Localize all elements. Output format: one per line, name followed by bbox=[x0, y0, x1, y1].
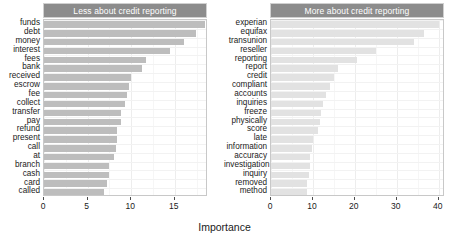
y-axis-tick-label: equifax bbox=[224, 28, 267, 36]
panel-more-about-credit-reporting: More about credit reporting experianequi… bbox=[224, 0, 449, 240]
y-axis-tick-label: transfer bbox=[0, 108, 40, 116]
bar bbox=[44, 74, 131, 81]
x-axis-tick bbox=[270, 197, 271, 200]
y-axis-tick-label: interest bbox=[0, 46, 40, 54]
panel-title-strip-left: Less about credit reporting bbox=[43, 3, 207, 18]
x-axis-tick-label: 15 bbox=[159, 202, 189, 211]
x-axis-tick bbox=[174, 197, 175, 200]
bar bbox=[44, 92, 127, 99]
x-axis-tick-label: 30 bbox=[381, 202, 411, 211]
bar bbox=[271, 127, 318, 134]
bar bbox=[44, 83, 129, 90]
x-axis-tick bbox=[438, 197, 439, 200]
bar bbox=[44, 39, 184, 46]
bar bbox=[271, 119, 320, 126]
bar bbox=[271, 30, 424, 37]
x-axis-tick bbox=[87, 197, 88, 200]
y-axis-tick-label: money bbox=[0, 37, 40, 45]
y-axis-tick-label: score bbox=[224, 125, 267, 133]
y-axis-tick-label: accuracy bbox=[224, 152, 267, 160]
y-axis-tick-label: at bbox=[0, 152, 40, 160]
y-axis-tick-label: branch bbox=[0, 161, 40, 169]
y-axis-tick-label: present bbox=[0, 134, 40, 142]
y-axis-tick-label: card bbox=[0, 179, 40, 187]
y-axis-tick-label: physically bbox=[224, 117, 267, 125]
y-axis-tick-label: escrow bbox=[0, 81, 40, 89]
panel-less-about-credit-reporting: Less about credit reporting fundsdebtmon… bbox=[0, 0, 224, 240]
x-axis-tick bbox=[354, 197, 355, 200]
y-axis-tick-label: transunion bbox=[224, 37, 267, 45]
y-axis-tick-label: removed bbox=[224, 179, 267, 187]
bar bbox=[271, 21, 439, 28]
x-axis-title: Importance bbox=[0, 221, 449, 233]
bar bbox=[44, 119, 121, 126]
bar bbox=[271, 163, 310, 170]
y-axis-tick-label: debt bbox=[0, 28, 40, 36]
y-axis-tick-label: experian bbox=[224, 19, 267, 27]
y-axis-tick-label: inquiry bbox=[224, 170, 267, 178]
y-axis-tick-label: collect bbox=[0, 99, 40, 107]
y-axis-tick-label: cash bbox=[0, 170, 40, 178]
panel-title-strip-right: More about credit reporting bbox=[270, 3, 444, 18]
x-axis-tick bbox=[312, 197, 313, 200]
bar bbox=[271, 74, 334, 81]
y-axis-tick-label: received bbox=[0, 72, 40, 80]
bar bbox=[271, 101, 323, 108]
bar bbox=[44, 110, 121, 117]
bar bbox=[271, 154, 310, 161]
y-axis-tick-label: fees bbox=[0, 55, 40, 63]
y-axis-tick-label: late bbox=[224, 134, 267, 142]
x-axis-tick-label: 0 bbox=[255, 202, 285, 211]
bar bbox=[271, 57, 357, 64]
y-axis-tick-label: reseller bbox=[224, 46, 267, 54]
bar bbox=[44, 57, 146, 64]
bar bbox=[271, 48, 376, 55]
y-axis-tick-label: inquiries bbox=[224, 99, 267, 107]
x-axis-tick-label: 20 bbox=[339, 202, 369, 211]
bar bbox=[44, 180, 107, 187]
bar bbox=[44, 145, 116, 152]
chart-figure: Less about credit reporting fundsdebtmon… bbox=[0, 0, 449, 240]
bar bbox=[44, 30, 196, 37]
bar bbox=[271, 83, 330, 90]
bar bbox=[271, 145, 312, 152]
bar bbox=[271, 172, 309, 179]
x-axis-tick bbox=[396, 197, 397, 200]
x-axis-tick bbox=[130, 197, 131, 200]
bar bbox=[44, 48, 170, 55]
y-axis-tick-label: accounts bbox=[224, 90, 267, 98]
y-axis-tick-label: call bbox=[0, 143, 40, 151]
bar bbox=[271, 39, 414, 46]
x-axis-tick bbox=[43, 197, 44, 200]
y-axis-tick-label: investigation bbox=[224, 161, 267, 169]
y-axis-tick-label: called bbox=[0, 187, 40, 195]
y-axis-tick-label: refund bbox=[0, 125, 40, 133]
bar bbox=[44, 101, 125, 108]
bar bbox=[271, 65, 338, 72]
bar bbox=[271, 92, 326, 99]
plot-area-right bbox=[270, 19, 444, 196]
bar bbox=[271, 110, 321, 117]
bar bbox=[271, 180, 307, 187]
bar bbox=[44, 189, 104, 196]
y-axis-tick-label: pay bbox=[0, 117, 40, 125]
bar bbox=[44, 127, 117, 134]
y-axis-tick-label: report bbox=[224, 63, 267, 71]
y-axis-tick-label: bank bbox=[0, 63, 40, 71]
bar bbox=[44, 65, 142, 72]
bar bbox=[271, 136, 313, 143]
bar bbox=[44, 172, 109, 179]
bar bbox=[44, 154, 114, 161]
y-axis-tick-label: freeze bbox=[224, 108, 267, 116]
x-axis-tick-label: 40 bbox=[423, 202, 449, 211]
bar bbox=[44, 21, 205, 28]
bar bbox=[44, 136, 117, 143]
y-axis-tick-label: reporting bbox=[224, 55, 267, 63]
bar bbox=[44, 163, 109, 170]
y-axis-tick-label: funds bbox=[0, 19, 40, 27]
x-axis-tick-label: 10 bbox=[297, 202, 327, 211]
x-axis-tick-label: 5 bbox=[72, 202, 102, 211]
y-axis-tick-label: information bbox=[224, 143, 267, 151]
y-axis-tick-label: compliant bbox=[224, 81, 267, 89]
bar bbox=[271, 189, 307, 196]
